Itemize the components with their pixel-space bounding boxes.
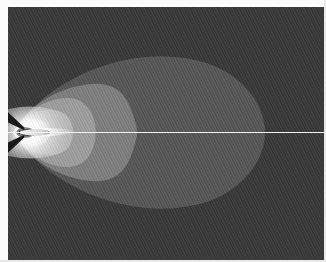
scan-margin-top: [0, 0, 326, 7]
plot-area: [8, 7, 324, 260]
plume-contour-canvas: [8, 7, 324, 260]
scan-margin-left: [0, 0, 8, 262]
figure-root: [0, 0, 326, 262]
